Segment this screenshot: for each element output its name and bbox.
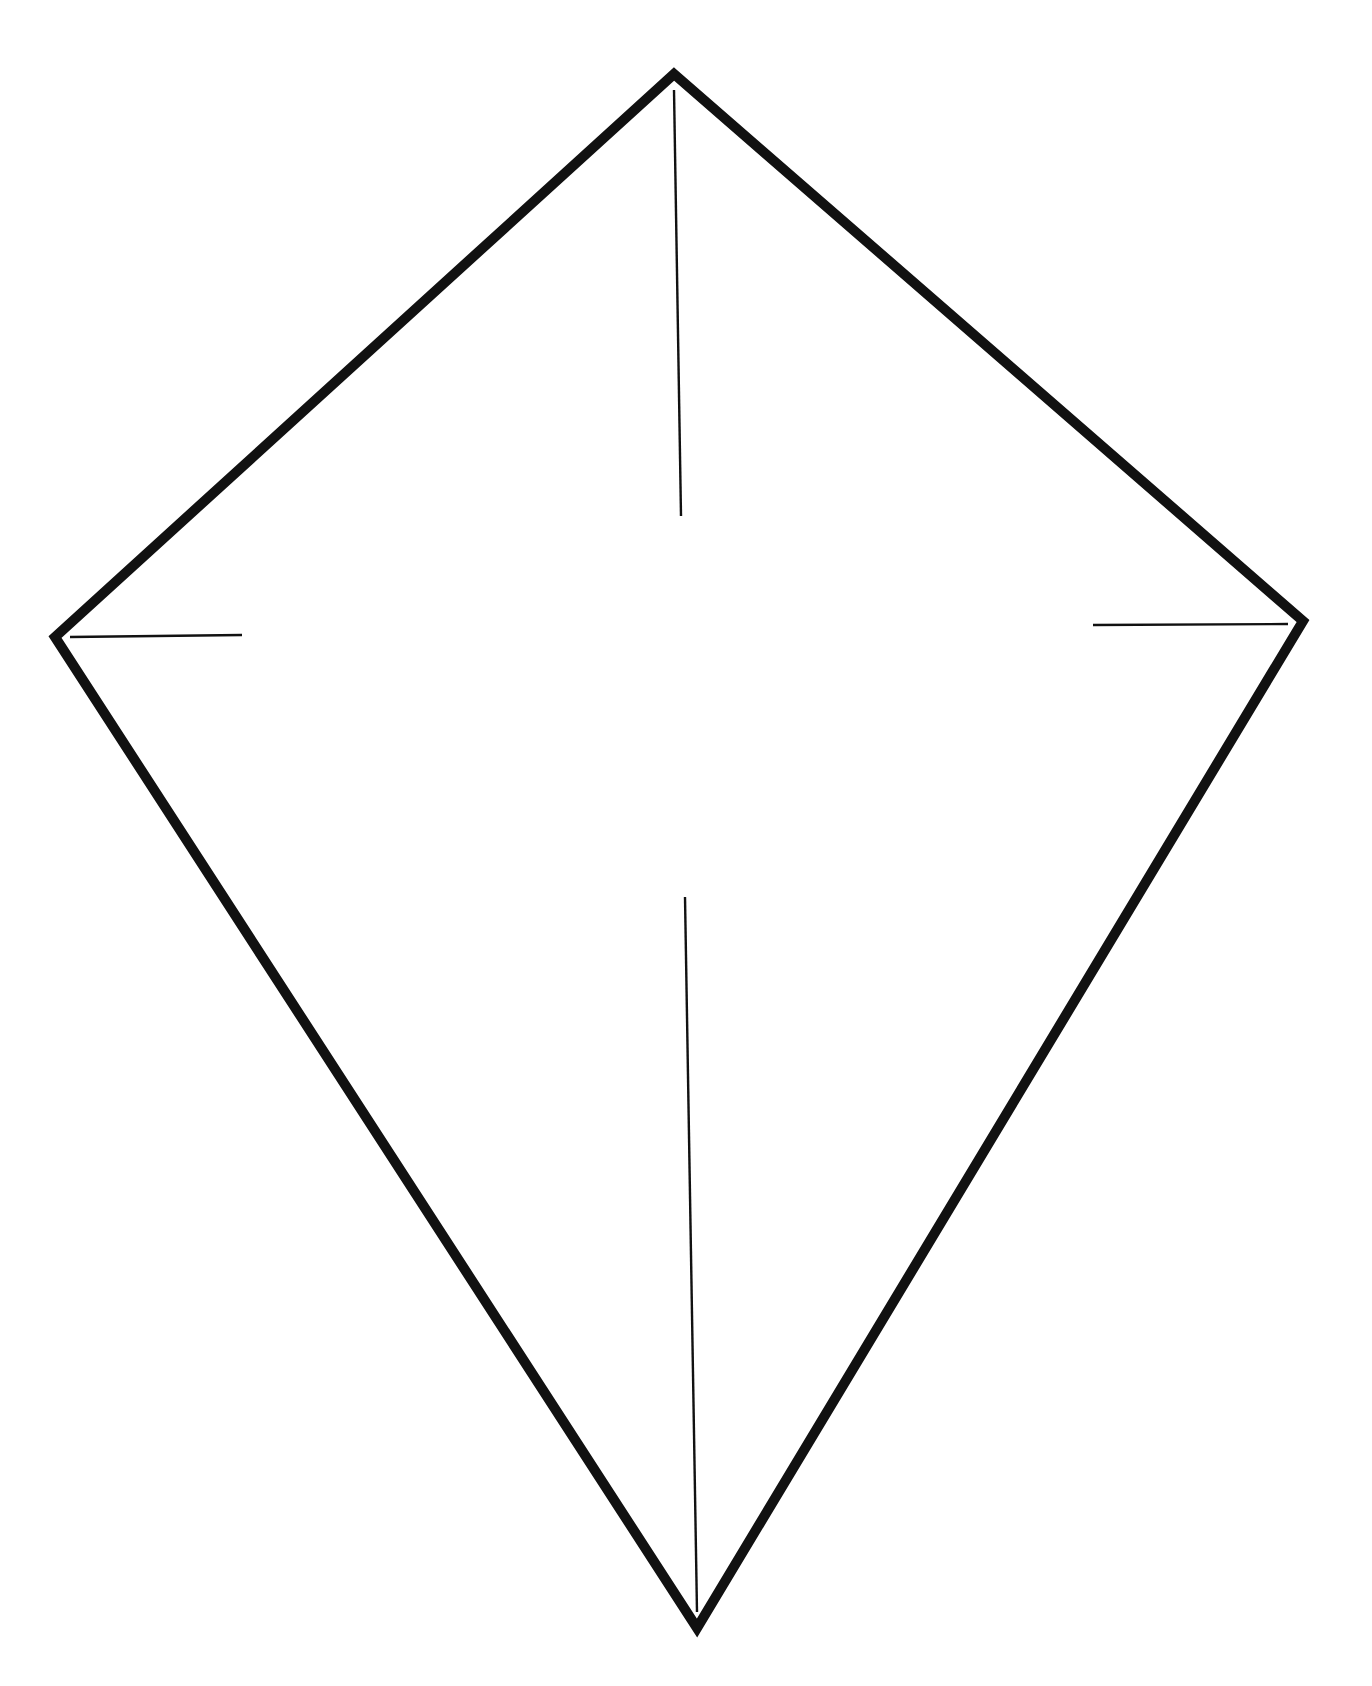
right-cross-tick xyxy=(1093,624,1288,625)
kite-diagram xyxy=(0,0,1372,1686)
